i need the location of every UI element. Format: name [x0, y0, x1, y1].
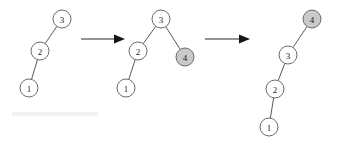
tree-node-4: 4 [303, 10, 321, 28]
tree-edge [166, 27, 180, 50]
tree-edge [293, 26, 307, 47]
node-label: 1 [267, 123, 272, 133]
tree-node-4: 4 [176, 48, 194, 66]
tree-node-2: 2 [129, 42, 147, 60]
tree-edge [143, 26, 156, 43]
tree-node-3: 3 [152, 10, 170, 28]
node-label: 3 [286, 51, 291, 61]
tree-node-1: 1 [20, 79, 38, 97]
tree-node-3: 3 [53, 10, 71, 28]
edges-layer [32, 26, 307, 118]
tree-node-2: 2 [266, 80, 284, 98]
node-label: 1 [124, 84, 129, 94]
node-label: 3 [60, 15, 65, 25]
node-label: 3 [159, 15, 164, 25]
arrow-head-icon [114, 35, 125, 44]
tree-transformation-figure: 32132414321 [0, 0, 341, 146]
node-label: 1 [27, 84, 32, 94]
figure-canvas: 32132414321 [0, 0, 341, 146]
arrow-2 [205, 35, 250, 44]
node-label: 4 [310, 15, 315, 25]
tree-edge [278, 63, 285, 80]
tree-edge [270, 98, 273, 118]
node-label: 2 [38, 47, 43, 57]
tree-node-1: 1 [117, 79, 135, 97]
tree-edge [129, 60, 135, 80]
node-label: 2 [273, 85, 278, 95]
arrow-head-icon [239, 35, 250, 44]
nodes-layer: 32132414321 [20, 10, 321, 136]
node-label: 4 [183, 53, 188, 63]
tree-node-3: 3 [279, 46, 297, 64]
background-smudge [12, 112, 98, 116]
arrow-1 [81, 35, 125, 44]
tree-edge [32, 60, 38, 80]
tree-node-1: 1 [260, 118, 278, 136]
arrows-layer [81, 35, 250, 44]
node-label: 2 [136, 47, 141, 57]
tree-node-2: 2 [31, 42, 49, 60]
tree-edge [45, 26, 57, 43]
